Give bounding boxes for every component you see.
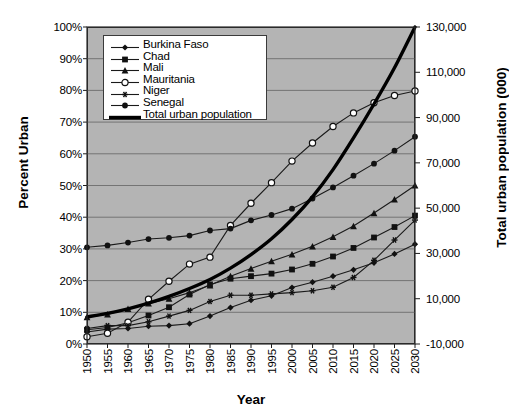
x-axis-tick-label: 1950 xyxy=(81,349,93,374)
x-axis-tick-label: 2005 xyxy=(307,349,319,374)
y-axis-right-tick-label: 130,000 xyxy=(426,21,466,33)
x-axis-tick-label: 2000 xyxy=(286,349,298,374)
x-axis-tick-label: 2020 xyxy=(368,349,380,374)
legend-item[interactable]: Burkina Faso xyxy=(107,39,266,51)
chart-legend: Burkina FasoChadMaliMauritaniaNigerSeneg… xyxy=(103,35,267,120)
y-axis-left-tick-label: 60% xyxy=(60,148,82,160)
legend-item-label: Total urban population xyxy=(143,109,252,121)
legend-item-label: Senegal xyxy=(143,97,184,109)
y-axis-left-tick-label: 30% xyxy=(60,243,82,255)
x-axis-tick-label: 1955 xyxy=(102,349,114,374)
x-axis-tick-label: 2015 xyxy=(348,349,360,374)
x-axis-tick-label: 1990 xyxy=(245,349,257,374)
x-axis-tick-label: 2010 xyxy=(327,349,339,374)
legend-item[interactable]: Total urban population xyxy=(107,109,266,121)
y-axis-left-tick-label: 80% xyxy=(60,84,82,96)
legend-item[interactable]: Senegal xyxy=(107,97,266,109)
legend-marker-circle-icon xyxy=(107,97,143,108)
y-axis-left-tick-label: 90% xyxy=(60,53,82,65)
legend-item[interactable]: Niger xyxy=(107,85,266,97)
x-axis-tick-label: 1965 xyxy=(143,349,155,374)
legend-marker-diamond-icon xyxy=(107,39,143,50)
y-axis-left-tick-label: 20% xyxy=(60,275,82,287)
legend-marker-open-circle-icon xyxy=(107,74,143,85)
legend-item-label: Burkina Faso xyxy=(143,39,208,51)
y-axis-left-tick-label: 50% xyxy=(60,180,82,192)
x-axis-tick-label: 1970 xyxy=(163,349,175,374)
y-axis-left-tick-label: 40% xyxy=(60,211,82,223)
y-axis-left-tick-label: 0% xyxy=(66,338,82,350)
x-axis-tick-label: 1985 xyxy=(225,349,237,374)
y-axis-right-tick-label: 30,000 xyxy=(426,247,460,259)
x-axis-tick-label: 2030 xyxy=(409,349,421,374)
y-axis-right-tick-label: -10,000 xyxy=(426,338,464,350)
x-axis-tick-label: 1960 xyxy=(122,349,134,374)
legend-item[interactable]: Mauritania xyxy=(107,74,266,86)
x-axis-tick-label: 1975 xyxy=(184,349,196,374)
x-axis-tick-label: 1980 xyxy=(204,349,216,374)
legend-item[interactable]: Chad xyxy=(107,51,266,63)
legend-marker-line-icon xyxy=(107,109,143,120)
y-axis-left-tick-label: 70% xyxy=(60,116,82,128)
y-axis-right-tick-label: 110,000 xyxy=(426,66,465,78)
x-axis-tick-label: 1995 xyxy=(266,349,278,374)
x-axis-tick-label: 2025 xyxy=(389,349,401,374)
y-axis-right-tick-label: 90,000 xyxy=(426,112,460,124)
legend-marker-star-icon xyxy=(107,86,143,97)
y-axis-right-tick-label: 50,000 xyxy=(426,202,460,214)
x-axis-title: Year xyxy=(87,392,415,407)
legend-marker-triangle-icon xyxy=(107,62,143,73)
y-axis-left-title: Percent Urban xyxy=(16,93,31,233)
y-axis-right-tick-label: 70,000 xyxy=(426,157,460,169)
y-axis-right-title: Total urban population (000) xyxy=(494,58,509,258)
y-axis-left-tick-label: 10% xyxy=(60,306,82,318)
chart-container: 0%10%20%30%40%50%60%70%80%90%100% -10,00… xyxy=(0,0,509,416)
legend-marker-square-icon xyxy=(107,51,143,62)
y-axis-right-tick-label: 10,000 xyxy=(426,293,460,305)
y-axis-left-tick-label: 100% xyxy=(53,21,82,33)
